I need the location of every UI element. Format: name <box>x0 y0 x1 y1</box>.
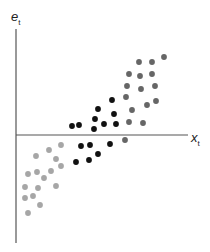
data-point <box>58 142 64 148</box>
x-axis-label-subscript: t <box>198 139 200 148</box>
data-point <box>124 83 130 89</box>
data-point <box>126 119 132 125</box>
data-point <box>41 175 47 181</box>
data-point <box>35 185 41 191</box>
data-point <box>34 169 40 175</box>
data-point <box>33 153 39 159</box>
data-point <box>111 111 117 117</box>
data-point <box>136 59 142 65</box>
data-point <box>46 147 52 153</box>
data-point <box>30 193 36 199</box>
data-point <box>138 86 144 92</box>
data-point <box>107 141 113 147</box>
data-point <box>92 116 98 122</box>
data-point <box>86 157 92 163</box>
data-point <box>113 121 119 127</box>
data-point <box>95 151 101 157</box>
data-point <box>137 73 143 79</box>
data-point <box>53 156 59 162</box>
data-point <box>152 83 158 89</box>
data-point <box>101 121 107 127</box>
data-point <box>76 122 82 128</box>
data-point <box>153 98 159 104</box>
data-point <box>22 195 28 201</box>
data-point <box>53 183 59 189</box>
data-point <box>109 97 115 103</box>
y-axis-label: et <box>11 10 20 27</box>
data-point <box>95 106 101 112</box>
data-point <box>161 54 167 60</box>
data-point <box>149 59 155 65</box>
data-point <box>69 123 75 129</box>
data-point <box>149 71 155 77</box>
data-point <box>123 94 129 100</box>
data-point <box>129 107 135 113</box>
scatter-plot <box>0 0 210 252</box>
data-point <box>126 71 132 77</box>
data-point <box>78 143 84 149</box>
data-point <box>122 137 128 143</box>
y-axis-label-subscript: t <box>18 18 20 27</box>
data-point <box>48 168 54 174</box>
data-point <box>73 159 79 165</box>
x-axis-label: xt <box>191 131 200 148</box>
data-point <box>87 142 93 148</box>
data-point <box>144 102 150 108</box>
data-point <box>140 120 146 126</box>
data-point <box>22 184 28 190</box>
data-point <box>25 171 31 177</box>
data-point <box>58 163 64 169</box>
data-point <box>25 210 31 216</box>
data-point <box>37 202 43 208</box>
data-point <box>91 126 97 132</box>
